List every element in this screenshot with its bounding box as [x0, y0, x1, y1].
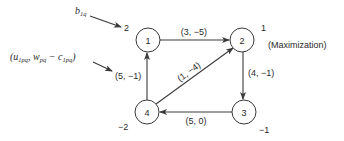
supply-legend-arrow	[90, 16, 121, 27]
node-4-label: 4	[144, 108, 149, 118]
node-3-label: 3	[241, 108, 246, 118]
maximization-label: (Maximization)	[268, 40, 327, 50]
node-3: 3	[232, 100, 256, 124]
node-1-label: 1	[145, 36, 150, 46]
edge-4-2	[156, 48, 233, 104]
edge-3-4-label: (5, 0)	[185, 116, 206, 126]
edge-2-3-label: (4, −1)	[248, 68, 274, 78]
edge-legend: (u1pq, wpq − c1pq)	[10, 51, 76, 63]
node-4-supply: −2	[118, 122, 128, 132]
node-1-supply: 2	[124, 23, 129, 33]
network-diagram: 1 2 3 4 2 1 −1 −2 (3, −5) (4, −1) (5, 0)…	[0, 0, 344, 141]
node-4: 4	[135, 100, 159, 124]
edge-4-1-label: (5, −1)	[115, 71, 141, 81]
supply-legend: b1q	[75, 5, 87, 17]
node-2: 2	[230, 28, 254, 52]
node-2-supply: 1	[261, 23, 266, 33]
node-3-supply: −1	[259, 125, 269, 135]
node-2-label: 2	[239, 36, 244, 46]
edge-legend-arrow	[93, 62, 112, 71]
node-1: 1	[136, 28, 160, 52]
edge-1-2-label: (3, −5)	[181, 27, 207, 37]
